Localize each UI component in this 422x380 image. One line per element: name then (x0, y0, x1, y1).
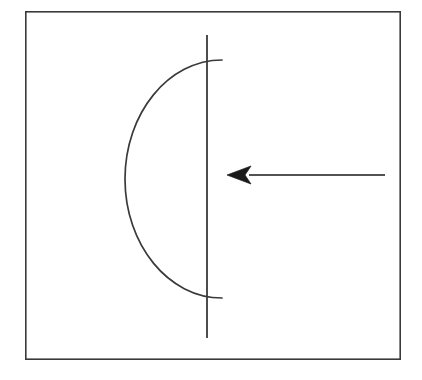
figure-border (26, 12, 400, 359)
figure-root (0, 0, 422, 380)
figure-canvas (0, 0, 422, 380)
